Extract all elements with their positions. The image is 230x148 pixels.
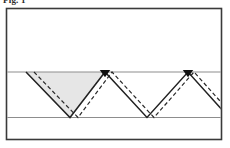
figure-page: Fig. 1	[0, 0, 230, 148]
figure-diagram	[0, 0, 230, 148]
